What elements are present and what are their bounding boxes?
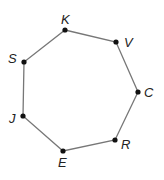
vertex-label-s: S (8, 51, 17, 66)
vertex-label-k: K (61, 12, 71, 27)
vertex-point-s (21, 59, 26, 64)
vertex-label-v: V (124, 35, 134, 50)
vertex-point-r (112, 137, 117, 142)
vertices: KVCREJS (8, 12, 154, 170)
vertex-label-e: E (58, 155, 67, 170)
vertex-point-c (135, 89, 140, 94)
vertex-label-c: C (144, 85, 154, 100)
vertex-point-v (113, 39, 118, 44)
heptagon-diagram: KVCREJS (0, 0, 164, 180)
vertex-point-e (60, 148, 65, 153)
vertex-point-k (62, 27, 67, 32)
heptagon-outline (23, 30, 138, 151)
vertex-label-r: R (121, 137, 130, 152)
vertex-point-j (20, 113, 25, 118)
vertex-label-j: J (8, 111, 16, 126)
